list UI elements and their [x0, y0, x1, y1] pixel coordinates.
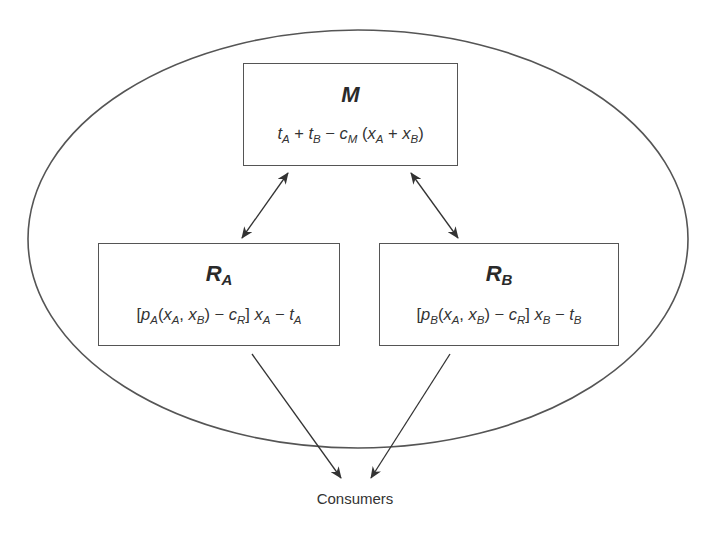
manufacturer-formula: tA + tB − cM (xA + xB) [277, 124, 423, 145]
consumers-label: Consumers [305, 490, 405, 507]
retailer-b-box: RB [pB(xA, xB) − cR] xB − tB [379, 243, 619, 346]
retailer-b-title: RB [486, 263, 513, 287]
retailer-a-title: RA [206, 263, 233, 287]
arrow-rb-consumers [371, 354, 450, 478]
manufacturer-box: M tA + tB − cM (xA + xB) [243, 63, 458, 166]
retailer-a-formula: [pA(xA, xB) − cR] xA − tA [136, 305, 301, 326]
arrow-m-ra [242, 173, 288, 238]
manufacturer-title: M [341, 84, 359, 106]
arrow-m-rb [411, 173, 458, 238]
arrow-ra-consumers [252, 354, 341, 478]
retailer-b-formula: [pB(xA, xB) − cR] xB − tB [416, 305, 581, 326]
retailer-a-box: RA [pA(xA, xB) − cR] xA − tA [98, 243, 340, 346]
